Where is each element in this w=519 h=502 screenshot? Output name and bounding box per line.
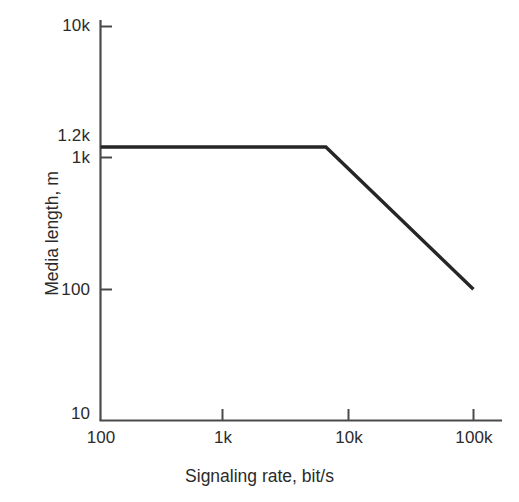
x-tick-label-1k: 1k xyxy=(214,428,232,448)
x-tick-label-10k: 10k xyxy=(335,428,363,448)
x-tick-label-100: 100 xyxy=(87,428,116,448)
chart-figure: 10k 1.2k 1k 100 10 100 1k 10k 100k Media… xyxy=(0,0,519,502)
y-axis-title: Media length, m xyxy=(42,134,63,334)
data-series-line xyxy=(101,147,474,289)
y-tick-label-10: 10 xyxy=(22,404,90,424)
y-tick-label-10k: 10k xyxy=(22,16,90,36)
x-tick-label-100k: 100k xyxy=(455,428,492,448)
plot-canvas xyxy=(0,0,519,502)
x-axis-title: Signaling rate, bit/s xyxy=(0,466,519,487)
